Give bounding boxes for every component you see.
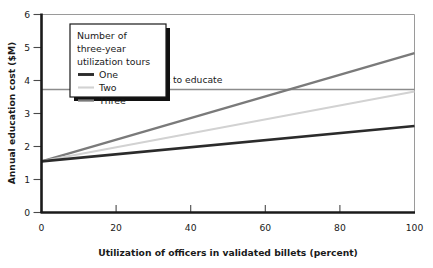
x-tick-label: 60 bbox=[259, 222, 271, 233]
x-tick-label: 0 bbox=[39, 222, 45, 233]
chart-figure: 6 5 4 3 2 1 0 0 20 40 60 80 100 bbox=[0, 0, 433, 268]
y-tick-label: 5 bbox=[24, 42, 30, 53]
legend-label-three: Three bbox=[98, 95, 126, 106]
x-tick-label: 80 bbox=[334, 222, 346, 233]
y-tick-label: 6 bbox=[24, 9, 30, 20]
y-tick-label: 0 bbox=[24, 207, 30, 218]
legend: Number of three-year utilization tours O… bbox=[70, 24, 170, 106]
legend-title-line: Number of bbox=[77, 30, 127, 41]
y-tick-label: 2 bbox=[24, 141, 30, 152]
y-tick-label: 3 bbox=[24, 108, 30, 119]
legend-title-line: utilization tours bbox=[77, 56, 150, 67]
y-axis-title: Annual education cost ($M) bbox=[6, 42, 17, 185]
legend-label-one: One bbox=[99, 69, 118, 80]
y-tick-label: 4 bbox=[24, 75, 30, 86]
legend-label-two: Two bbox=[98, 82, 117, 93]
legend-title-line: three-year bbox=[77, 43, 126, 54]
x-tick-label: 40 bbox=[185, 222, 197, 233]
x-tick-label: 20 bbox=[110, 222, 122, 233]
x-tick-label: 100 bbox=[406, 222, 424, 233]
line-chart: 6 5 4 3 2 1 0 0 20 40 60 80 100 bbox=[0, 0, 433, 268]
chart-background bbox=[0, 0, 433, 268]
y-tick-label: 1 bbox=[24, 174, 30, 185]
x-axis-title: Utilization of officers in validated bil… bbox=[98, 247, 358, 258]
